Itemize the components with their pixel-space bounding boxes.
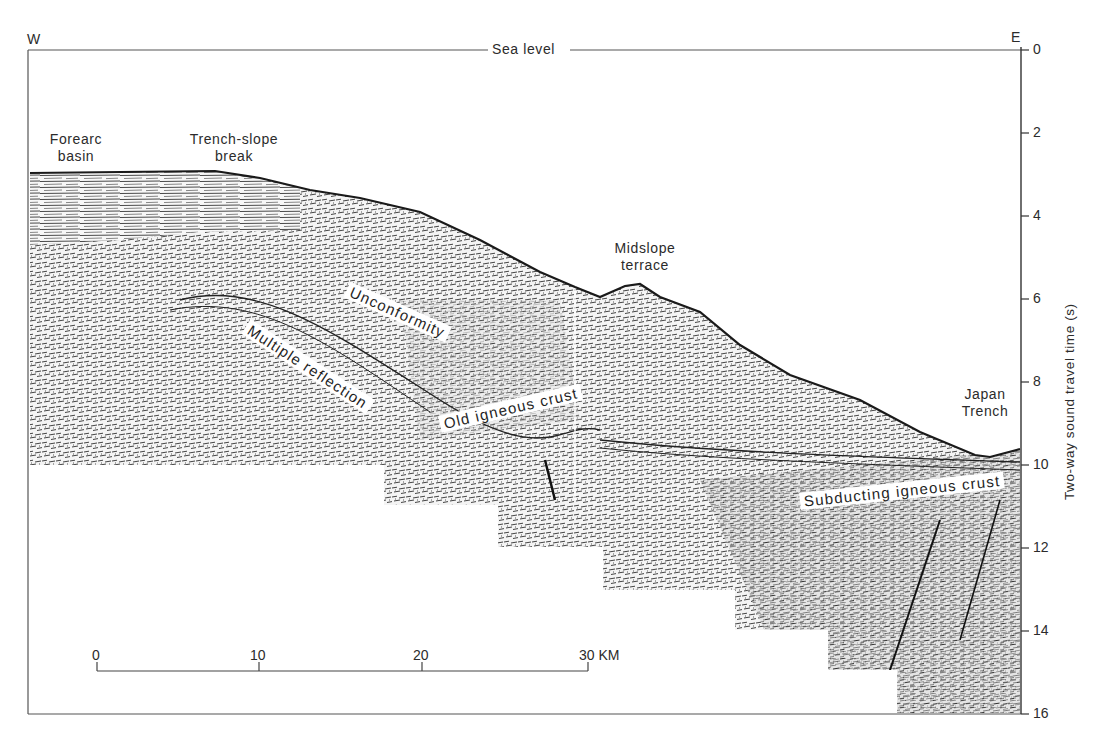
scale-tick-20: 20: [413, 647, 429, 663]
japan-trench-label: Japan Trench: [955, 386, 1015, 420]
scale-bar: [97, 662, 588, 671]
axis-tick-4: 4: [1033, 207, 1041, 223]
axis-tick-6: 6: [1033, 290, 1041, 306]
seismic-section-graphic: [0, 0, 1103, 745]
east-label: E: [1011, 29, 1020, 45]
scale-tick-0: 0: [92, 647, 100, 663]
west-label: W: [27, 31, 40, 47]
axis-tick-10: 10: [1033, 456, 1049, 472]
axis-tick-8: 8: [1033, 373, 1041, 389]
midslope-terrace-label: Midslope terrace: [605, 240, 685, 274]
axis-tick-12: 12: [1033, 539, 1049, 555]
sea-level-label: Sea level: [492, 41, 555, 58]
seismic-profile-figure: W E Sea level 0 2 4 6 8 10 12 14 16 Two-…: [0, 0, 1103, 745]
axis-tick-2: 2: [1033, 124, 1041, 140]
trench-slope-break-label: Trench-slope break: [184, 131, 284, 165]
axis-tick-14: 14: [1033, 622, 1049, 638]
scale-tick-10: 10: [250, 647, 266, 663]
axis-tick-16: 16: [1033, 705, 1049, 721]
axis-tick-0: 0: [1033, 41, 1041, 57]
axis-title: Two-way sound travel time (s): [1062, 303, 1077, 500]
forearc-basin-label: Forearc basin: [42, 131, 110, 165]
scale-tick-30-km: 30 KM: [579, 647, 619, 663]
